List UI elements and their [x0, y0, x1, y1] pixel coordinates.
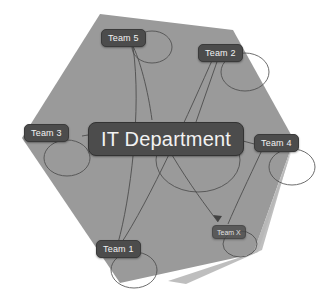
node-team-x[interactable]: Team X: [212, 225, 246, 239]
node-team-5[interactable]: Team 5: [101, 29, 146, 47]
node-team-x-label: Team X: [217, 229, 241, 236]
node-team-4[interactable]: Team 4: [254, 134, 299, 152]
node-team-2[interactable]: Team 2: [198, 44, 243, 62]
graph-diagram-canvas: IT Department Team 5 Team 2 Team 3 Team …: [0, 0, 324, 298]
node-team-5-label: Team 5: [108, 33, 139, 43]
node-team-4-label: Team 4: [261, 138, 292, 148]
node-team-3[interactable]: Team 3: [24, 124, 69, 142]
node-team-1[interactable]: Team 1: [96, 240, 141, 258]
node-team-3-label: Team 3: [31, 128, 62, 138]
node-it-department[interactable]: IT Department: [88, 122, 244, 156]
node-team-2-label: Team 2: [205, 48, 236, 58]
node-it-department-label: IT Department: [101, 128, 231, 151]
node-team-1-label: Team 1: [103, 244, 134, 254]
